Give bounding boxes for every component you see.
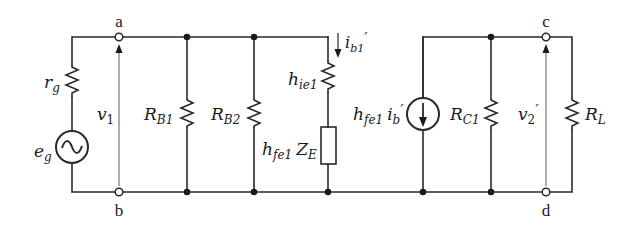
terminal-c bbox=[542, 33, 550, 41]
circuit-diagram: a b c d rg eg v1 RB1 RB2 hie1 ib1′ hfe1Z… bbox=[0, 0, 637, 228]
source-resistor-rg bbox=[66, 65, 78, 131]
resistor-hie1 bbox=[322, 60, 334, 127]
v1-voltage-arrow bbox=[116, 44, 123, 186]
label-rl: RL bbox=[584, 104, 606, 127]
label-ib1: ib1′ bbox=[345, 29, 368, 55]
impedance-ze-box bbox=[321, 127, 336, 192]
terminal-a-label: a bbox=[115, 12, 123, 31]
bottom-rail-wire bbox=[72, 130, 572, 192]
terminal-d-label: d bbox=[542, 201, 551, 220]
ac-voltage-source-eg bbox=[56, 131, 88, 163]
label-rb1: RB1 bbox=[143, 104, 173, 127]
resistor-rc1 bbox=[485, 37, 497, 192]
resistor-rb1 bbox=[181, 37, 193, 192]
label-hie1: hie1 bbox=[288, 69, 318, 92]
terminal-d bbox=[542, 188, 550, 196]
resistor-rb2 bbox=[248, 37, 260, 192]
label-eg: eg bbox=[34, 141, 52, 164]
v2-voltage-arrow bbox=[543, 44, 550, 186]
dependent-current-source bbox=[407, 37, 439, 192]
terminal-c-label: c bbox=[542, 12, 550, 31]
label-v1: v1 bbox=[97, 104, 114, 127]
top-rail-wire bbox=[72, 37, 572, 98]
label-hfe1-ze: hfe1ZE bbox=[262, 139, 317, 162]
terminal-b-label: b bbox=[115, 201, 124, 220]
label-v2: v2′ bbox=[518, 101, 539, 127]
label-rg: rg bbox=[44, 72, 60, 95]
label-rb2: RB2 bbox=[210, 104, 240, 127]
ib1-current-arrow bbox=[335, 33, 342, 58]
terminal-b bbox=[115, 188, 123, 196]
resistor-rl bbox=[566, 98, 578, 130]
terminal-a bbox=[115, 33, 123, 41]
label-dependent-source: hfe1ib′ bbox=[353, 101, 404, 127]
label-rc1: RC1 bbox=[449, 104, 480, 127]
